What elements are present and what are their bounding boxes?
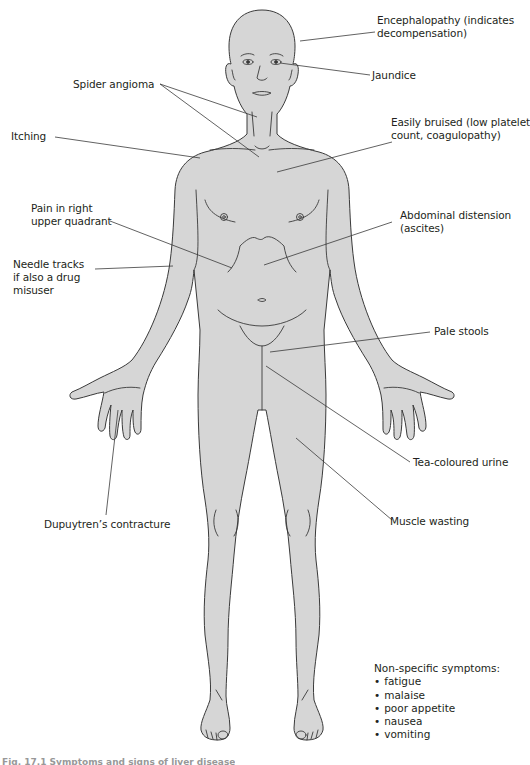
label-pain-ruq: Pain in right upper quadrant — [31, 202, 112, 228]
leader-encephalopathy — [300, 32, 375, 41]
label-itching: Itching — [11, 130, 46, 143]
non-specific-item: fatigue — [374, 675, 500, 688]
label-abdominal-distension: Abdominal distension (ascites) — [400, 209, 511, 235]
non-specific-item: malaise — [374, 689, 500, 702]
label-muscle-wasting: Muscle wasting — [390, 515, 469, 528]
non-specific-item: vomiting — [374, 728, 500, 741]
label-spider-angioma: Spider angioma — [73, 78, 154, 91]
non-specific-item: poor appetite — [374, 702, 500, 715]
label-tea-coloured-urine: Tea-coloured urine — [413, 456, 508, 469]
non-specific-title: Non-specific symptoms: — [374, 662, 500, 675]
non-specific-symptoms-list: Non-specific symptoms: fatigue malaise p… — [374, 662, 500, 742]
label-jaundice: Jaundice — [372, 69, 416, 82]
non-specific-item: nausea — [374, 715, 500, 728]
label-dupuytrens-contracture: Dupuytren’s contracture — [44, 518, 170, 531]
label-easily-bruised: Easily bruised (low platelet count, coag… — [391, 116, 530, 142]
leader-itching — [55, 137, 200, 158]
label-encephalopathy: Encephalopathy (indicates decompensation… — [377, 14, 514, 40]
label-pale-stools: Pale stools — [434, 325, 489, 338]
figure-caption: Fig. 17.1 Symptoms and signs of liver di… — [2, 757, 235, 765]
label-needle-tracks: Needle tracks if also a drug misuser — [13, 258, 84, 297]
leader-needle-tracks — [95, 266, 173, 269]
